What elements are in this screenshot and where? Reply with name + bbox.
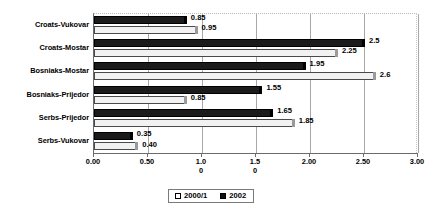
bar-value-label: 1.95 — [310, 60, 325, 68]
category-label: Serbs-Prijedor — [0, 114, 89, 122]
bar-value-label: 1.55 — [266, 84, 281, 92]
bar-2002 — [94, 62, 305, 70]
x-axis-tick-label: 1.00 — [181, 158, 221, 175]
bar-group: 1.952.6 — [94, 61, 416, 84]
bar-2000-1 — [94, 49, 337, 57]
bar-2000-1 — [94, 119, 294, 127]
legend-item[interactable]: 2000/1 — [175, 192, 207, 200]
x-axis-tick-label: 2.50 — [343, 158, 383, 167]
tick-label-line2: 0 — [235, 167, 275, 176]
bar-end-cap — [335, 49, 338, 57]
category-label: Bosniaks-Mostar — [0, 67, 89, 75]
tick-label-line1: 0.00 — [73, 158, 113, 167]
bar-value-label: 0.95 — [202, 24, 217, 32]
bar-2000-1 — [94, 72, 375, 80]
category-label: Croats-Vukovar — [0, 21, 89, 29]
bar-value-label: 0.35 — [137, 130, 152, 138]
x-axis-tick-label: 0.00 — [73, 158, 113, 167]
bar-end-cap — [184, 96, 187, 104]
x-axis-tick-label: 1.50 — [235, 158, 275, 175]
bar-value-label: 2.6 — [380, 71, 391, 79]
legend-swatch-icon — [175, 193, 181, 199]
plot-area: 0.850.952.52.251.952.61.550.851.651.850.… — [93, 13, 417, 153]
bar-2002 — [94, 86, 261, 94]
bar-group: 1.651.85 — [94, 107, 416, 130]
x-axis-tick-label: 2.00 — [289, 158, 329, 167]
tick-label-line1: 2.00 — [289, 158, 329, 167]
tick-label-line2: 0 — [181, 167, 221, 176]
bar-end-cap — [184, 16, 187, 24]
category-axis: Croats-VukovarCroats-MostarBosniaks-Most… — [0, 13, 89, 153]
category-label: Serbs-Vukovar — [0, 137, 89, 145]
legend-swatch-icon — [220, 193, 226, 199]
legend-label: 2000/1 — [184, 192, 207, 200]
bar-2000-1 — [94, 142, 137, 150]
bar-2000-1 — [94, 96, 186, 104]
tick-label-line1: 3.00 — [397, 158, 437, 167]
bar-end-cap — [292, 119, 295, 127]
chart-legend: 2000/12002 — [168, 189, 254, 203]
bar-end-cap — [373, 72, 376, 80]
tick-label-line1: 2.50 — [343, 158, 383, 167]
legend-item[interactable]: 2002 — [220, 192, 246, 200]
category-label: Croats-Mostar — [0, 44, 89, 52]
category-label: Bosniaks-Prijedor — [0, 91, 89, 99]
bar-group: 0.350.40 — [94, 131, 416, 154]
bar-end-cap — [195, 26, 198, 34]
x-axis-tick-label: 3.00 — [397, 158, 437, 167]
x-axis-tick-label: 0.50 — [127, 158, 167, 167]
bar-value-label: 1.65 — [277, 107, 292, 115]
bar-group: 1.550.85 — [94, 84, 416, 107]
bar-value-label: 2.25 — [342, 47, 357, 55]
bar-end-cap — [362, 39, 365, 47]
bar-end-cap — [270, 109, 273, 117]
legend-label: 2002 — [229, 192, 246, 200]
bar-2002 — [94, 132, 132, 140]
bar-2002 — [94, 39, 364, 47]
gridline — [418, 14, 419, 153]
bar-end-cap — [130, 132, 133, 140]
bar-end-cap — [135, 142, 138, 150]
bar-2000-1 — [94, 26, 197, 34]
bar-end-cap — [303, 62, 306, 70]
bar-value-label: 0.85 — [191, 94, 206, 102]
bar-2002 — [94, 109, 272, 117]
bar-value-label: 0.40 — [142, 141, 157, 149]
bar-group: 2.52.25 — [94, 37, 416, 60]
bar-group: 0.850.95 — [94, 14, 416, 37]
bar-value-label: 2.5 — [369, 37, 380, 45]
bar-chart: Croats-VukovarCroats-MostarBosniaks-Most… — [0, 0, 439, 213]
bar-value-label: 1.85 — [299, 117, 314, 125]
bar-2002 — [94, 16, 186, 24]
bar-end-cap — [259, 86, 262, 94]
bar-value-label: 0.85 — [191, 14, 206, 22]
tick-label-line1: 0.50 — [127, 158, 167, 167]
